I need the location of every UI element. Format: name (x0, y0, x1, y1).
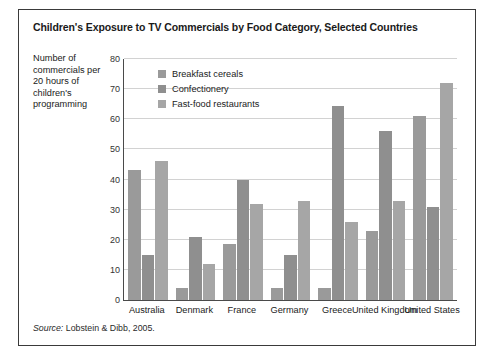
bar (298, 201, 311, 300)
bar (155, 161, 168, 300)
plot-area: 01020304050607080 Breakfast cerealsConfe… (123, 59, 457, 301)
bar-group (413, 59, 453, 300)
bar (440, 83, 453, 300)
y-tick-label: 40 (110, 175, 120, 185)
bar (223, 244, 236, 300)
plot-wrapper: 01020304050607080 Breakfast cerealsConfe… (105, 56, 457, 303)
bar (284, 255, 297, 300)
bar (366, 231, 379, 300)
source-note: Source: Lobstein & Dibb, 2005. (33, 323, 155, 333)
bar (345, 222, 358, 300)
legend-item-1: Breakfast cereals (158, 67, 259, 80)
legend-item-2: Confectionery (158, 82, 259, 95)
bar (189, 237, 202, 300)
bar-group (271, 59, 311, 300)
y-tick-label: 60 (110, 114, 120, 124)
y-tick-label: 70 (110, 84, 120, 94)
legend-label: Breakfast cereals (172, 69, 243, 79)
legend-label: Fast-food restaurants (172, 99, 259, 109)
x-tick-label: United States (399, 305, 465, 316)
figure-card: Children's Exposure to TV Commercials by… (18, 9, 476, 346)
bar (393, 201, 406, 300)
bar (332, 106, 345, 300)
legend-swatch-icon (158, 70, 166, 78)
bar (128, 170, 141, 300)
bar (142, 255, 155, 300)
bar-group (318, 59, 358, 300)
bar (427, 207, 440, 300)
bar (203, 264, 216, 300)
legend-item-3: Fast-food restaurants (158, 97, 259, 110)
y-tick-label: 10 (110, 265, 120, 275)
chart-legend: Breakfast cerealsConfectioneryFast-food … (158, 67, 259, 112)
bar-group (366, 59, 406, 300)
x-axis-labels: AustraliaDenmarkFranceGermanyGreeceUnite… (123, 305, 457, 335)
legend-label: Confectionery (172, 84, 229, 94)
y-tick-label: 30 (110, 205, 120, 215)
source-text: Lobstein & Dibb, 2005. (66, 323, 155, 333)
bar (250, 204, 263, 300)
source-label: Source: (33, 323, 63, 333)
page-title: Children's Exposure to TV Commercials by… (33, 21, 463, 33)
bar (237, 180, 250, 301)
bar (271, 288, 284, 300)
y-tick-label: 50 (110, 144, 120, 154)
legend-swatch-icon (158, 85, 166, 93)
bar (379, 131, 392, 300)
y-tick-label: 20 (110, 235, 120, 245)
y-tick-label: 0 (115, 295, 120, 305)
bar (413, 116, 426, 300)
bar (318, 288, 331, 300)
legend-swatch-icon (158, 100, 166, 108)
y-tick-label: 80 (110, 54, 120, 64)
y-axis-title: Number of commercials per 20 hours of ch… (33, 53, 109, 111)
bar (176, 288, 189, 300)
